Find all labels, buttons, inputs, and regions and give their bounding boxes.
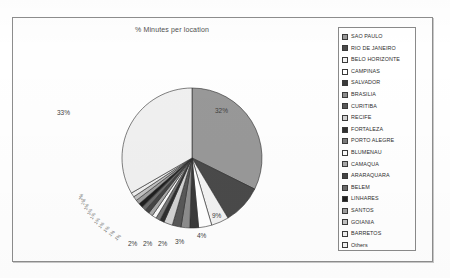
pie-value-label: 32% [215,108,228,115]
legend-item-label: BLUMENAU [351,150,382,155]
legend-item-label: SALVADOR [351,80,380,85]
legend-swatch-icon [342,150,348,156]
legend-swatch-icon [342,127,348,133]
legend-item-label: RIO DE JANEIRO [351,46,396,51]
pie-value-label: 2% [143,241,152,248]
pie-value-label: 9% [212,213,221,220]
legend-item[interactable]: Others [342,240,415,252]
legend-item-label: GOIANIA [351,220,374,225]
legend-item-label: ARARAQUARA [351,173,390,178]
legend-item-label: CAMPINAS [351,69,380,74]
pie-value-label: 2% [158,241,167,248]
legend-item[interactable]: FORTALEZA [342,124,415,136]
legend-swatch-icon [342,173,348,179]
legend-item-label: RECIFE [351,115,371,120]
legend-item-label: CURITIBA [351,104,377,109]
pie-chart-svg: SAO PAULO 32%RIO DE JANEIRO 9%BELO HORIZ… [12,17,332,262]
legend-swatch-icon [342,219,348,225]
legend-item-label: SAO PAULO [351,34,383,39]
legend-swatch-icon [342,57,348,63]
legend-item[interactable]: RECIFE [342,112,415,124]
legend-item[interactable]: SALVADOR [342,77,415,89]
legend-item[interactable]: BRASILIA [342,89,415,101]
legend-swatch-icon [342,103,348,109]
legend-item[interactable]: SAO PAULO [342,31,415,43]
legend-item[interactable]: RIO DE JANEIRO [342,43,415,55]
legend-item-label: SANTOS [351,208,374,213]
legend-item-label: CAMAQUA [351,162,379,167]
legend-swatch-icon [342,242,348,248]
legend-item-label: Others [351,243,368,248]
pie-value-label: 3% [175,239,184,246]
legend-swatch-icon [342,208,348,214]
legend-item-label: FORTALEZA [351,127,383,132]
legend-item-label: BRASILIA [351,92,376,97]
legend-item[interactable]: GOIANIA [342,217,415,229]
legend-item[interactable]: SANTOS [342,205,415,217]
legend-item-label: BELEM [351,185,370,190]
legend-item[interactable]: PORTO ALEGRE [342,135,415,147]
chart-page: % Minutes per location SAO PAULO 32%RIO … [0,0,450,278]
legend-swatch-icon [342,196,348,202]
pie-value-label: 2% [128,241,137,248]
pie-value-label: 33% [57,110,70,117]
legend-item[interactable]: BELEM [342,182,415,194]
legend-swatch-icon [342,185,348,191]
legend-swatch-icon [342,80,348,86]
legend-item[interactable]: CAMAQUA [342,159,415,171]
legend-item[interactable]: BLUMENAU [342,147,415,159]
pie-value-label: 4% [197,233,206,240]
legend-item[interactable]: CURITIBA [342,101,415,113]
legend-item[interactable]: BARRETOS [342,228,415,240]
legend-item-label: BARRETOS [351,231,381,236]
legend-swatch-icon [342,115,348,121]
legend-item[interactable]: BELO HORIZONTE [342,54,415,66]
legend-item-label: BELO HORIZONTE [351,57,400,62]
legend-item-label: PORTO ALEGRE [351,138,394,143]
chart-legend: SAO PAULORIO DE JANEIROBELO HORIZONTECAM… [338,27,416,251]
legend-swatch-icon [342,45,348,51]
legend-item[interactable]: CAMPINAS [342,66,415,78]
pie-slice-group: SAO PAULO 32%RIO DE JANEIRO 9%BELO HORIZ… [122,88,262,228]
legend-swatch-icon [342,34,348,40]
legend-swatch-icon [342,138,348,144]
pie-chart-area: SAO PAULO 32%RIO DE JANEIRO 9%BELO HORIZ… [12,17,332,262]
legend-swatch-icon [342,231,348,237]
legend-item-label: LINHARES [351,196,379,201]
legend-swatch-icon [342,69,348,75]
legend-item[interactable]: ARARAQUARA [342,170,415,182]
legend-swatch-icon [342,92,348,98]
legend-item[interactable]: LINHARES [342,193,415,205]
legend-swatch-icon [342,161,348,167]
